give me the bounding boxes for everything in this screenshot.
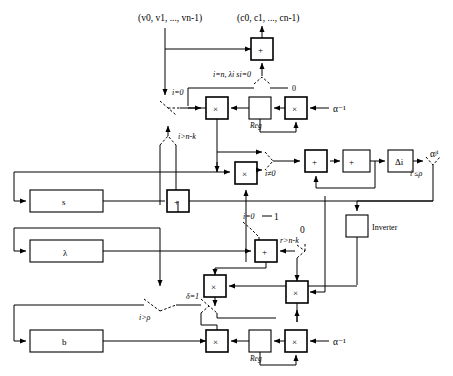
const-one-mid-label: 1	[274, 212, 279, 222]
mux-i-eq-0-mid-label: i=0	[243, 212, 255, 221]
mux-i-eq-0-top-label: i=0	[172, 88, 184, 97]
mult-mid-label: ×	[242, 169, 247, 179]
adder-lambda-label: +	[262, 247, 267, 257]
const-zero-top-label: 0	[292, 84, 296, 93]
reg-bottom-box	[249, 330, 271, 352]
input-vector-label: (v0, v1, ..., vn-1)	[138, 13, 202, 24]
mux-i-n-lambda-label: i=n, λi si=0	[213, 70, 251, 79]
output-vector-label: (c0, c1, ..., cn-1)	[237, 13, 300, 24]
alpha-inv-bottom-label: α⁻¹	[333, 337, 346, 347]
diagram-background	[0, 0, 453, 376]
adder-delta-label: +	[312, 157, 317, 167]
reg-s-box	[30, 190, 103, 212]
alpha-ji-label: αʲⁱ	[430, 149, 438, 159]
mult-top-label: ×	[213, 104, 218, 114]
reg-top-box	[249, 97, 271, 119]
mux-i-gt-nk-top-label: i>n-k	[178, 132, 196, 141]
mux-i-ne-0-label: i≠0	[265, 169, 276, 178]
adder-top-label: +	[258, 45, 263, 55]
alpha-inv-top-label: α⁻¹	[333, 104, 346, 114]
mux-delta-eq-1-label: δ=1	[186, 292, 199, 301]
mux-i-le-rho-label: i ≤ρ	[410, 169, 423, 178]
delta-i-label: +	[349, 157, 354, 167]
inverter-box	[346, 215, 368, 237]
mult-lambda-label: ×	[211, 282, 216, 292]
inverter-label: Inverter	[372, 223, 398, 232]
reg-b-box	[30, 330, 103, 352]
delta-i-box	[343, 150, 370, 172]
mult-bottom-label: ×	[213, 337, 218, 347]
const-zero-mid-label: 0	[300, 225, 305, 235]
reg-b-label: b	[62, 337, 67, 347]
mult-inv-label: ×	[293, 288, 298, 298]
mux-i-gt-rho-label: i>ρ	[139, 313, 151, 322]
reg-s-label: s	[62, 197, 66, 207]
mult-top-right-label: ×	[292, 104, 297, 114]
diagram-canvas: (v0, v1, ..., vn-1) (c0, c1, ..., cn-1) …	[0, 0, 453, 376]
mux-r-gt-nk-label: r>n-k	[280, 236, 299, 245]
reg-lambda-label: λ	[63, 248, 68, 258]
decoder-datapath-svg: (v0, v1, ..., vn-1) (c0, c1, ..., cn-1) …	[0, 0, 453, 376]
mult-bottom-right-label: ×	[292, 337, 297, 347]
delta-label: Δi	[395, 157, 404, 167]
